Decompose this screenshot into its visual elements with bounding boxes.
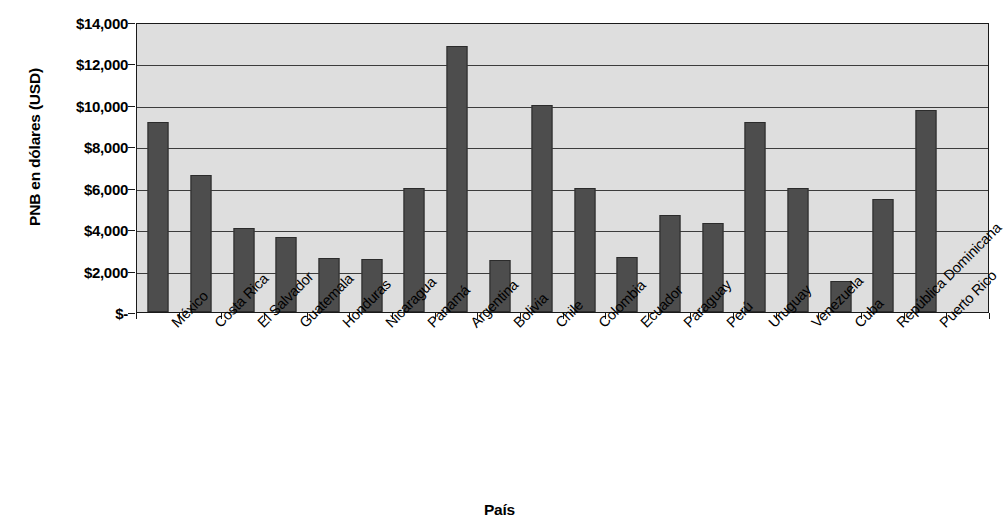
y-axis-tick-label: $- [115, 306, 128, 321]
bar-slot [777, 24, 820, 312]
bar-slot [350, 24, 393, 312]
bar-slot [180, 24, 223, 312]
bar-slot [393, 24, 436, 312]
bar-slot [691, 24, 734, 312]
bar-slot [478, 24, 521, 312]
bar[interactable] [745, 122, 766, 312]
y-axis-tick-label: $10,000 [76, 98, 128, 113]
y-axis-tick-label: $14,000 [76, 16, 128, 31]
y-axis-tick-mark [128, 230, 135, 231]
bar-slot [265, 24, 308, 312]
bar-slot [222, 24, 265, 312]
bar-slot [137, 24, 180, 312]
bar[interactable] [148, 122, 169, 312]
y-axis-tick-labels: $-$2,000$4,000$6,000$8,000$10,000$12,000… [30, 0, 128, 330]
x-axis-tick-mark [989, 313, 990, 319]
y-axis-tick-mark [128, 272, 135, 273]
y-axis-tick-label: $12,000 [76, 57, 128, 72]
y-axis-tick-mark [128, 64, 135, 65]
y-axis-tick-label: $6,000 [84, 181, 128, 196]
plot-area [136, 23, 989, 313]
bar-slot [564, 24, 607, 312]
bars-container [137, 24, 988, 312]
y-axis-tick-mark [128, 147, 135, 148]
bar-slot [819, 24, 862, 312]
bar-slot [521, 24, 564, 312]
y-axis-tick-mark [128, 189, 135, 190]
x-axis-tick-labels: MéxicoCosta RicaEl SalvadorGuatemalaHond… [136, 318, 989, 503]
y-axis-tick-mark [128, 106, 135, 107]
y-axis-tick-mark [128, 23, 135, 24]
bar-slot [436, 24, 479, 312]
bar-slot [862, 24, 905, 312]
y-axis-tick-label: $8,000 [84, 140, 128, 155]
bar[interactable] [532, 105, 553, 312]
x-axis-title: País [0, 501, 999, 517]
y-axis-tick-label: $4,000 [84, 223, 128, 238]
bar-slot [734, 24, 777, 312]
bar-slot [308, 24, 351, 312]
bar-slot [905, 24, 948, 312]
bar[interactable] [574, 188, 595, 312]
bar[interactable] [446, 46, 467, 312]
y-axis-tick-label: $2,000 [84, 264, 128, 279]
bar-slot [606, 24, 649, 312]
y-axis-tick-mark [128, 313, 135, 314]
bar-slot [649, 24, 692, 312]
